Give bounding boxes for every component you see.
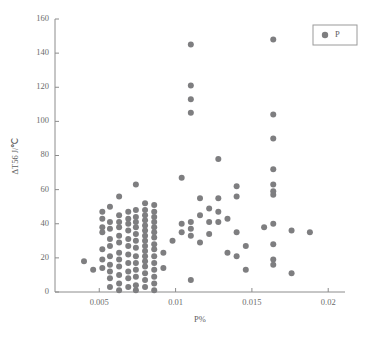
- y-tick-label: 160: [36, 13, 49, 23]
- x-axis-title: P%: [194, 314, 206, 324]
- data-point: [188, 226, 194, 232]
- data-point: [215, 195, 221, 201]
- scatter-chart: 020406080100120140160 0.0050.010.0150.02…: [0, 0, 367, 340]
- data-point: [188, 219, 194, 225]
- data-point: [151, 260, 157, 266]
- data-point: [125, 236, 131, 242]
- data-point: [133, 267, 139, 273]
- data-point: [270, 166, 276, 172]
- data-point: [270, 192, 276, 198]
- data-point: [270, 221, 276, 227]
- x-tick-label: 0.01: [168, 297, 183, 307]
- y-tick-label: 80: [41, 149, 50, 159]
- y-tick-label: 20: [41, 252, 50, 262]
- data-point: [133, 224, 139, 230]
- data-point: [116, 219, 122, 225]
- legend[interactable]: P: [313, 25, 357, 45]
- data-point: [133, 214, 139, 220]
- data-point: [261, 224, 267, 230]
- data-point: [270, 241, 276, 247]
- data-point: [125, 269, 131, 275]
- data-point: [151, 246, 157, 252]
- data-point: [107, 236, 113, 242]
- data-point: [99, 257, 105, 263]
- data-point: [142, 217, 148, 223]
- data-point: [179, 175, 185, 181]
- y-tick-label: 0: [45, 286, 49, 296]
- data-point: [107, 204, 113, 210]
- legend-label: P: [335, 29, 340, 39]
- data-point: [107, 284, 113, 290]
- data-point: [142, 228, 148, 234]
- y-axis-title: ΔT56 J/℃: [10, 138, 20, 175]
- data-point: [116, 272, 122, 278]
- data-point: [133, 182, 139, 188]
- data-point: [81, 258, 87, 264]
- data-point: [116, 224, 122, 230]
- data-point: [151, 267, 157, 273]
- data-point: [243, 243, 249, 249]
- data-point: [160, 250, 166, 256]
- data-point: [107, 243, 113, 249]
- data-points-layer: [81, 36, 313, 293]
- data-point: [142, 200, 148, 206]
- data-point: [206, 219, 212, 225]
- data-point: [107, 253, 113, 259]
- data-point: [151, 241, 157, 247]
- data-point: [116, 240, 122, 246]
- plot-canvas: 020406080100120140160 0.0050.010.0150.02…: [0, 0, 367, 340]
- data-point: [234, 193, 240, 199]
- data-point: [142, 253, 148, 259]
- data-point: [142, 258, 148, 264]
- x-tick-label: 0.02: [321, 297, 336, 307]
- data-point: [151, 234, 157, 240]
- y-tick-label: 100: [36, 115, 49, 125]
- data-point: [116, 280, 122, 286]
- data-point: [224, 250, 230, 256]
- data-point: [133, 231, 139, 237]
- data-point: [142, 207, 148, 213]
- data-point: [188, 233, 194, 239]
- data-point: [142, 222, 148, 228]
- data-point: [215, 219, 221, 225]
- data-point: [142, 238, 148, 244]
- data-point: [151, 202, 157, 208]
- data-point: [188, 110, 194, 116]
- data-point: [270, 257, 276, 263]
- data-point: [107, 269, 113, 275]
- data-point: [270, 262, 276, 268]
- data-point: [188, 83, 194, 89]
- data-point: [116, 257, 122, 263]
- data-point: [133, 282, 139, 288]
- data-point: [133, 238, 139, 244]
- x-tick-label: 0.005: [90, 297, 109, 307]
- data-point: [125, 284, 131, 290]
- data-point: [142, 270, 148, 276]
- data-point: [125, 275, 131, 281]
- data-point: [116, 250, 122, 256]
- data-point: [133, 207, 139, 213]
- data-point: [270, 112, 276, 118]
- data-point: [125, 243, 131, 249]
- data-point: [142, 263, 148, 269]
- data-point: [133, 287, 139, 293]
- data-point: [289, 270, 295, 276]
- data-point: [151, 224, 157, 230]
- data-point: [179, 221, 185, 227]
- data-point: [107, 262, 113, 268]
- data-point: [151, 209, 157, 215]
- data-point: [125, 260, 131, 266]
- y-axis-ticks: 020406080100120140160: [36, 13, 59, 296]
- data-point: [142, 284, 148, 290]
- data-point: [151, 280, 157, 286]
- data-point: [99, 246, 105, 252]
- data-point: [107, 219, 113, 225]
- data-point: [151, 287, 157, 293]
- data-point: [215, 209, 221, 215]
- data-point: [99, 229, 105, 235]
- y-tick-label: 140: [36, 47, 49, 57]
- data-point: [188, 96, 194, 102]
- data-point: [234, 229, 240, 235]
- data-point: [151, 219, 157, 225]
- data-point: [99, 216, 105, 222]
